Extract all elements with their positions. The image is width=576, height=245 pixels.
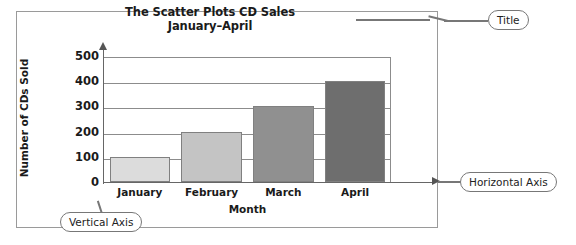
x-axis-tick-label: March bbox=[248, 186, 320, 198]
vertical-axis-arrow-icon bbox=[99, 42, 107, 50]
callout-horizontal-axis: Horizontal Axis bbox=[460, 172, 557, 192]
y-axis-tick-label: 0 bbox=[59, 177, 99, 188]
bar-march bbox=[253, 106, 313, 182]
x-axis-tick-label: April bbox=[319, 186, 391, 198]
bar-april bbox=[325, 81, 385, 182]
horizontal-axis-line bbox=[103, 182, 434, 183]
x-axis-tick-label: January bbox=[104, 186, 176, 198]
chart-title-line-2: January–April bbox=[60, 19, 360, 33]
x-axis-title: Month bbox=[104, 203, 391, 215]
horizontal-axis-callout-leader bbox=[438, 181, 462, 183]
y-axis-tick-label: 400 bbox=[59, 76, 99, 87]
vertical-axis-line bbox=[103, 48, 104, 184]
y-axis-tick-labels: 0100200300400500 bbox=[53, 0, 99, 245]
y-axis-tick-label: 300 bbox=[59, 101, 99, 112]
y-axis-tick-label: 100 bbox=[59, 152, 99, 163]
callout-vertical-axis: Vertical Axis bbox=[60, 212, 142, 232]
y-axis-tick-label: 200 bbox=[59, 127, 99, 138]
bar-january bbox=[110, 157, 170, 182]
callout-title: Title bbox=[488, 10, 529, 30]
title-callout-leader-segment-1 bbox=[356, 19, 430, 21]
chart-title-line-1: The Scatter Plots CD Sales bbox=[125, 5, 295, 19]
y-axis-tick-label: 500 bbox=[59, 51, 99, 62]
bar-february bbox=[181, 132, 241, 182]
plot-area bbox=[104, 57, 391, 183]
x-axis-tick-label: February bbox=[176, 186, 248, 198]
title-callout-leader-segment-3 bbox=[444, 20, 488, 22]
chart-title: The Scatter Plots CD Sales January–April bbox=[60, 5, 360, 33]
y-axis-title: Number of CDs Sold bbox=[18, 58, 30, 178]
